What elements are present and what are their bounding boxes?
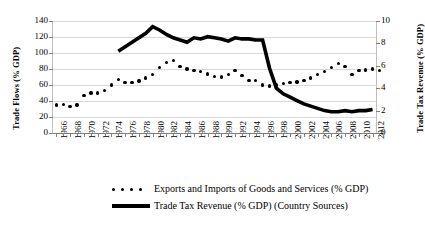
tick-mark-minor	[194, 133, 195, 136]
tick-mark-minor	[77, 133, 78, 136]
data-point	[110, 83, 113, 86]
data-point	[89, 91, 92, 94]
tick-mark	[376, 111, 380, 112]
data-point	[275, 83, 278, 86]
data-point	[309, 76, 312, 79]
data-point	[82, 94, 85, 97]
y-axis-right-tick-label: 4	[381, 83, 403, 92]
tick-mark-minor	[352, 133, 353, 136]
data-point	[282, 82, 285, 85]
legend-item-trade-tax-revenue: Trade Tax Revenue (% GDP) (Country Sourc…	[0, 197, 425, 214]
y-axis-left-tick-label: 120	[14, 32, 48, 41]
legend-line-marker-icon	[112, 201, 150, 211]
tick-mark-minor	[311, 133, 312, 136]
tick-mark-minor	[98, 133, 99, 136]
tick-mark-minor	[283, 133, 284, 136]
y-axis-left-tick-label: 0	[14, 128, 48, 137]
tick-mark-minor	[118, 133, 119, 136]
tick-mark	[376, 43, 380, 44]
data-point	[343, 65, 346, 68]
data-point	[295, 80, 298, 83]
tick-mark-minor	[160, 133, 161, 136]
tick-mark-minor	[366, 133, 367, 136]
y-axis-left-tick-label: 140	[14, 16, 48, 25]
data-point	[185, 67, 188, 70]
data-point	[117, 78, 120, 81]
legend-label-exports-imports: Exports and Imports of Goods and Service…	[154, 183, 368, 194]
axis-line-right	[376, 21, 377, 134]
data-point	[130, 81, 133, 84]
data-point	[364, 68, 367, 71]
tick-mark-minor	[84, 133, 85, 136]
data-point	[220, 75, 223, 78]
tick-mark-minor	[235, 133, 236, 136]
data-point	[330, 66, 333, 69]
tick-mark-minor	[173, 133, 174, 136]
tick-mark-minor	[373, 133, 374, 136]
tick-mark-minor	[180, 133, 181, 136]
tick-mark-minor	[338, 133, 339, 136]
y-axis-left-tick-label: 100	[14, 48, 48, 57]
tick-mark-minor	[345, 133, 346, 136]
tick-mark-minor	[105, 133, 106, 136]
tick-mark-minor	[359, 133, 360, 136]
tick-mark-minor	[221, 133, 222, 136]
tick-mark-minor	[70, 133, 71, 136]
y-axis-right-title: Trade Tax Revenue (% GDP)	[415, 24, 425, 133]
tick-mark-minor	[153, 133, 154, 136]
tick-mark-minor	[146, 133, 147, 136]
tick-mark	[376, 66, 380, 67]
plot-area	[53, 21, 376, 133]
data-point	[240, 74, 243, 77]
tick-mark-minor	[139, 133, 140, 136]
data-point	[206, 72, 209, 75]
tick-mark-minor	[208, 133, 209, 136]
y-axis-right-tick-label: 6	[381, 61, 403, 70]
y-axis-left-tick-label: 80	[14, 64, 48, 73]
legend-label-trade-tax-revenue: Trade Tax Revenue (% GDP) (Country Sourc…	[154, 200, 348, 211]
tick-mark-minor	[166, 133, 167, 136]
y-axis-left-tick-label: 60	[14, 80, 48, 89]
data-point	[302, 79, 305, 82]
data-point	[213, 75, 216, 78]
tick-mark-minor	[379, 133, 380, 136]
tick-mark-minor	[187, 133, 188, 136]
tick-mark-minor	[111, 133, 112, 136]
tick-mark-minor	[290, 133, 291, 136]
data-point	[350, 73, 353, 76]
chart-legend: Exports and Imports of Goods and Service…	[0, 180, 425, 214]
tick-mark-minor	[91, 133, 92, 136]
tick-mark-minor	[63, 133, 64, 136]
tick-mark-minor	[269, 133, 270, 136]
y-axis-right-tick-label: 10	[381, 16, 403, 25]
tick-mark	[376, 21, 380, 22]
tick-mark-minor	[304, 133, 305, 136]
x-axis-tick-label: 2012	[377, 121, 386, 139]
tick-mark	[49, 133, 53, 134]
data-point	[337, 62, 340, 65]
tick-mark-minor	[331, 133, 332, 136]
tick-mark-minor	[228, 133, 229, 136]
data-point	[137, 79, 140, 82]
legend-dot-marker-icon	[112, 184, 150, 194]
tick-mark-minor	[318, 133, 319, 136]
tick-mark-minor	[125, 133, 126, 136]
tick-mark-minor	[249, 133, 250, 136]
tick-mark-minor	[132, 133, 133, 136]
data-point	[172, 59, 175, 62]
tick-mark	[376, 88, 380, 89]
y-axis-right-tick-label: 2	[381, 106, 403, 115]
y-axis-left-tick-label: 40	[14, 96, 48, 105]
legend-item-exports-imports: Exports and Imports of Goods and Service…	[0, 180, 425, 197]
data-point	[55, 103, 58, 106]
tick-mark-minor	[201, 133, 202, 136]
tick-mark-minor	[297, 133, 298, 136]
data-point	[261, 83, 264, 86]
data-point	[192, 69, 195, 72]
tick-mark-minor	[263, 133, 264, 136]
data-point	[268, 84, 271, 87]
tick-mark-minor	[242, 133, 243, 136]
data-point	[371, 67, 374, 70]
chart-figure: Trade Flows (% GDP) Trade Tax Revenue (%…	[0, 0, 425, 228]
tick-mark-minor	[256, 133, 257, 136]
